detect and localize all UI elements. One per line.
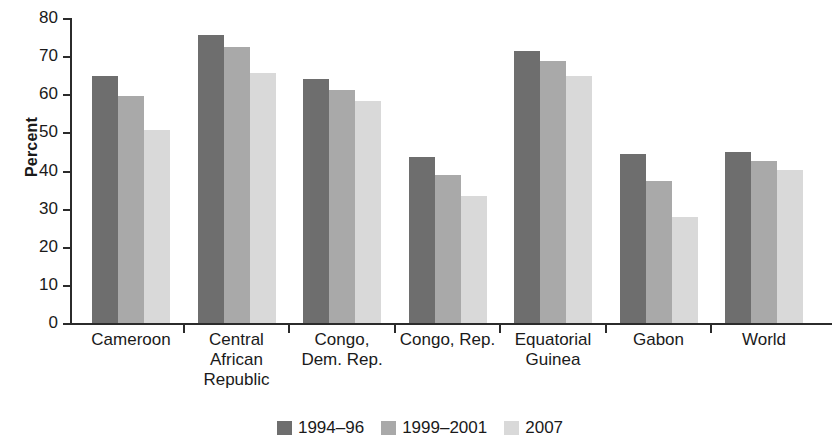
y-tick-label: 70 <box>18 46 58 66</box>
bar <box>435 175 461 323</box>
bar <box>777 170 803 323</box>
bar <box>224 47 250 323</box>
y-axis-title: Percent <box>23 87 41 207</box>
legend-label: 2007 <box>525 418 563 438</box>
y-tick-mark <box>63 323 70 325</box>
legend-label: 1999–2001 <box>402 418 487 438</box>
bar-group <box>92 18 170 323</box>
bar-chart: Percent 80706050403020100 CameroonCentra… <box>0 0 840 446</box>
x-axis-label: Equatorial Guinea <box>493 330 613 370</box>
y-tick-mark <box>63 285 70 287</box>
y-tick-label: 10 <box>18 275 58 295</box>
y-tick-label: 0 <box>18 313 58 333</box>
x-axis-label: Central African Republic <box>177 330 297 390</box>
y-tick-label: 60 <box>18 84 58 104</box>
y-tick-mark <box>63 56 70 58</box>
y-tick-mark <box>63 209 70 211</box>
legend-item[interactable]: 2007 <box>504 418 563 438</box>
y-tick-label: 50 <box>18 122 58 142</box>
bar <box>461 196 487 323</box>
y-tick-mark <box>63 171 70 173</box>
bar-group <box>725 18 803 323</box>
legend-swatch <box>277 421 292 435</box>
bar <box>646 181 672 323</box>
bar <box>329 90 355 323</box>
y-tick-label: 80 <box>18 8 58 28</box>
legend-item[interactable]: 1999–2001 <box>381 418 487 438</box>
y-tick-label: 20 <box>18 237 58 257</box>
bar-group <box>303 18 381 323</box>
bar <box>540 61 566 323</box>
y-tick-mark <box>63 94 70 96</box>
y-tick-mark <box>63 132 70 134</box>
bar-group <box>198 18 276 323</box>
bar <box>566 76 592 323</box>
bar <box>92 76 118 323</box>
y-axis-line <box>70 18 72 325</box>
x-axis-label: Congo, Rep. <box>388 330 508 350</box>
legend-item[interactable]: 1994–96 <box>277 418 364 438</box>
bar <box>409 157 435 323</box>
x-axis-label: Cameroon <box>71 330 191 350</box>
legend-label: 1994–96 <box>298 418 364 438</box>
bar <box>620 154 646 323</box>
bar-group <box>620 18 698 323</box>
x-axis-label: World <box>704 330 824 350</box>
plot-area: 80706050403020100 <box>70 18 832 324</box>
y-tick-label: 30 <box>18 199 58 219</box>
bar-group <box>514 18 592 323</box>
bar <box>672 217 698 323</box>
bar <box>198 35 224 323</box>
bar <box>514 51 540 323</box>
bar <box>751 161 777 323</box>
bar <box>144 130 170 323</box>
bar <box>303 79 329 323</box>
y-tick-mark <box>63 18 70 20</box>
bar <box>355 101 381 323</box>
chart-legend: 1994–961999–20012007 <box>0 418 840 438</box>
x-axis-label: Congo, Dem. Rep. <box>282 330 402 370</box>
legend-swatch <box>381 421 396 435</box>
bar <box>118 96 144 323</box>
legend-swatch <box>504 421 519 435</box>
y-tick-label: 40 <box>18 161 58 181</box>
bar <box>250 73 276 323</box>
x-axis-label: Gabon <box>599 330 719 350</box>
bar <box>725 152 751 323</box>
bar-group <box>409 18 487 323</box>
y-tick-mark <box>63 247 70 249</box>
